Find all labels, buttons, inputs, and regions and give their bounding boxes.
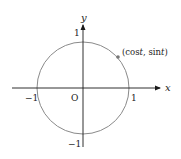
point-label-mid: , sin — [143, 47, 161, 57]
x-tick-1: 1 — [131, 93, 137, 103]
x-tick-neg1: −1 — [25, 93, 38, 103]
unit-circle-diagram: y x 1 −1 −1 1 O (cost, sint) — [0, 0, 181, 159]
point-label-open: (cos — [122, 47, 140, 57]
point-marker — [116, 55, 120, 59]
point-label-close: ) — [164, 47, 167, 57]
y-axis-label: y — [80, 12, 87, 23]
origin-label: O — [71, 93, 78, 103]
point-label: (cost, sint) — [122, 47, 168, 57]
y-tick-neg1: −1 — [68, 139, 81, 149]
x-axis-label: x — [165, 82, 171, 93]
y-tick-1: 1 — [74, 28, 80, 38]
